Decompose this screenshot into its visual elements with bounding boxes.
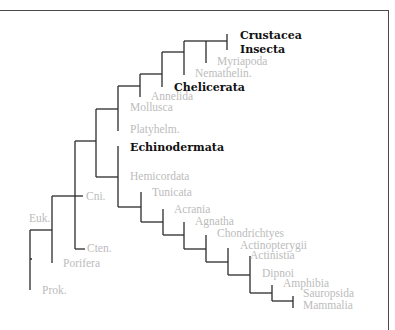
taxon-label-actinistia: Actinistia [250,250,295,262]
taxon-label-porifera: Porifera [63,258,100,270]
phylogenetic-tree [0,0,395,330]
taxon-label-crustacea: Crustacea [240,30,302,41]
taxon-label-cni: Cni. [86,191,106,203]
taxon-label-insecta: Insecta [240,44,285,55]
taxon-label-euk: Euk. [29,213,50,225]
taxon-label-hemicordata: Hemicordata [130,171,189,183]
taxon-label-tunicata: Tunicata [152,187,192,199]
taxon-label-chondrichtyes: Chondrichtyes [217,228,284,240]
taxon-label-mammalia: Mammalia [303,300,353,312]
taxon-label-prok: Prok. [42,285,67,297]
taxon-label-myriapoda: Myriapoda [217,56,267,68]
taxon-label-agnatha: Agnatha [195,216,234,228]
taxon-label-platyhelm: Platyhelm. [130,124,180,136]
taxon-label-mollusca: Mollusca [130,102,173,114]
taxon-label-echinodermata: Echinodermata [130,142,224,153]
taxon-label-cten: Cten. [87,243,112,255]
taxon-label-nemathelin: Nemathelin. [195,68,252,80]
taxon-label-sauropsida: Sauropsida [303,288,354,300]
taxon-label-acrania: Acrania [174,204,210,216]
